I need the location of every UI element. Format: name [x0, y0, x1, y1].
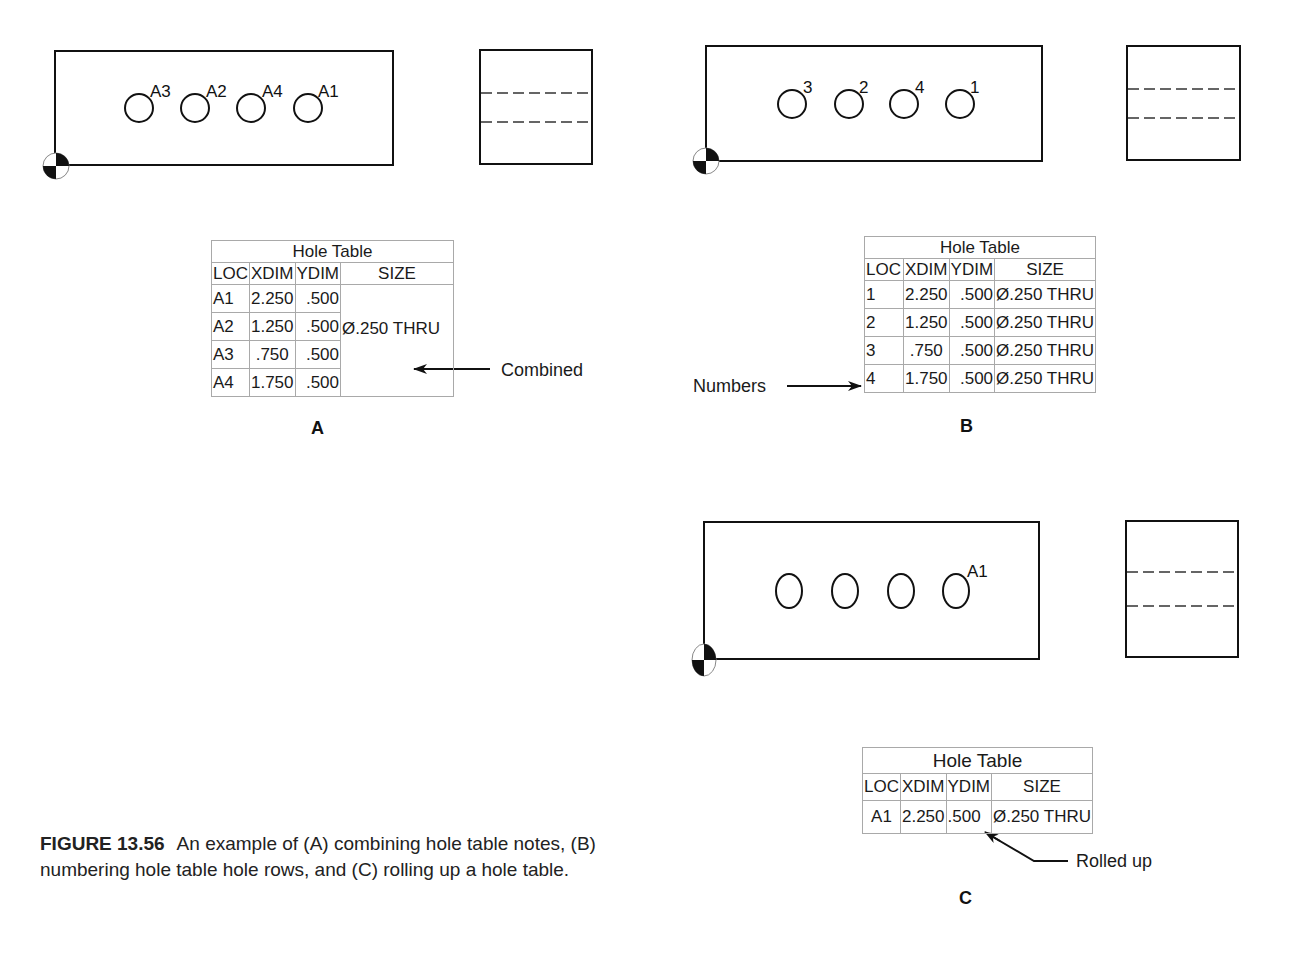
combined-annotation: Combined — [501, 360, 583, 381]
column-header: LOC — [212, 263, 250, 285]
hole-callout: A1 — [967, 562, 988, 582]
size-cell: Ø.250 THRU — [995, 365, 1096, 393]
xdim-cell: .750 — [249, 341, 295, 369]
loc-cell: A1 — [863, 801, 901, 834]
xdim-cell: 1.750 — [249, 369, 295, 397]
ydim-cell: .500 — [295, 369, 341, 397]
loc-cell: A1 — [212, 285, 250, 313]
datum-origin-icon — [43, 153, 69, 179]
hole-table-c: Hole Table LOC XDIM YDIM SIZE A1 2.250 .… — [862, 747, 1093, 834]
column-header: SIZE — [995, 259, 1096, 281]
column-header: XDIM — [249, 263, 295, 285]
ydim-cell: .500 — [949, 309, 995, 337]
figure-number: FIGURE 13.56 — [40, 833, 165, 854]
xdim-cell: 2.250 — [900, 801, 946, 834]
figure-caption: FIGURE 13.56An example of (A) combining … — [40, 831, 600, 883]
hole-a3 — [125, 94, 153, 122]
table-row: A1 2.250 .500 Ø.250 THRU — [863, 801, 1093, 834]
ydim-cell: .500 — [949, 365, 995, 393]
panel-label-b: B — [960, 416, 973, 437]
loc-cell: A3 — [212, 341, 250, 369]
numbers-annotation: Numbers — [693, 376, 766, 397]
panel-c-front-view — [692, 522, 1039, 676]
hole-callout: A2 — [206, 82, 227, 102]
panel-c-side-view — [1126, 521, 1238, 657]
column-header: YDIM — [295, 263, 341, 285]
ydim-cell: .500 — [295, 313, 341, 341]
hole-callout: A3 — [150, 82, 171, 102]
loc-cell: 2 — [865, 309, 904, 337]
table-row: 1 2.250 .500 Ø.250 THRU — [865, 281, 1096, 309]
ydim-cell: .500 — [946, 801, 992, 834]
column-header: XDIM — [904, 259, 950, 281]
loc-cell: 3 — [865, 337, 904, 365]
datum-origin-icon — [693, 148, 719, 174]
size-cell: Ø.250 THRU — [995, 281, 1096, 309]
xdim-cell: 2.250 — [904, 281, 950, 309]
loc-cell: 4 — [865, 365, 904, 393]
ydim-cell: .500 — [295, 341, 341, 369]
panel-label-c: C — [959, 888, 972, 909]
size-cell: Ø.250 THRU — [995, 337, 1096, 365]
ydim-cell: .500 — [949, 281, 995, 309]
table-row: 4 1.750 .500 Ø.250 THRU — [865, 365, 1096, 393]
rolled-up-arrow — [988, 834, 1068, 861]
column-header: YDIM — [946, 774, 992, 801]
table-row: A1 2.250 .500 Ø.250 THRU — [212, 285, 454, 313]
hole-a4 — [237, 94, 265, 122]
size-cell: Ø.250 THRU — [992, 801, 1093, 834]
hole-callout: 3 — [803, 78, 812, 98]
column-header: YDIM — [949, 259, 995, 281]
table-title: Hole Table — [212, 241, 454, 263]
table-title: Hole Table — [865, 237, 1096, 259]
xdim-cell: .750 — [904, 337, 950, 365]
table-title: Hole Table — [863, 748, 1093, 774]
panel-b-front-view — [693, 46, 1042, 174]
table-row: 3 .750 .500 Ø.250 THRU — [865, 337, 1096, 365]
drawing-canvas — [0, 0, 1293, 972]
ydim-cell: .500 — [949, 337, 995, 365]
rolled-up-annotation: Rolled up — [1076, 851, 1152, 872]
hole-callout: 2 — [859, 78, 868, 98]
panel-a-front-view — [43, 51, 393, 179]
hole-table-a: Hole Table LOC XDIM YDIM SIZE A1 2.250 .… — [211, 240, 454, 397]
loc-cell: 1 — [865, 281, 904, 309]
hole-a2 — [181, 94, 209, 122]
panel-label-a: A — [311, 418, 324, 439]
column-header: XDIM — [900, 774, 946, 801]
xdim-cell: 2.250 — [249, 285, 295, 313]
xdim-cell: 1.750 — [904, 365, 950, 393]
panel-b-side-view — [1127, 46, 1240, 160]
hole-callout: 4 — [915, 78, 924, 98]
datum-origin-icon — [692, 644, 716, 676]
loc-cell: A2 — [212, 313, 250, 341]
hole-table-b: Hole Table LOC XDIM YDIM SIZE 1 2.250 .5… — [864, 236, 1096, 393]
hole-callout: A1 — [318, 82, 339, 102]
hole-callout: A4 — [262, 82, 283, 102]
ydim-cell: .500 — [295, 285, 341, 313]
column-header: SIZE — [992, 774, 1093, 801]
hole-callout: 1 — [970, 78, 979, 98]
xdim-cell: 1.250 — [249, 313, 295, 341]
size-cell: Ø.250 THRU — [995, 309, 1096, 337]
combined-size-cell: Ø.250 THRU — [341, 285, 454, 397]
panel-a-side-view — [480, 50, 592, 164]
column-header: LOC — [865, 259, 904, 281]
column-header: LOC — [863, 774, 901, 801]
table-row: 2 1.250 .500 Ø.250 THRU — [865, 309, 1096, 337]
column-header: SIZE — [341, 263, 454, 285]
loc-cell: A4 — [212, 369, 250, 397]
xdim-cell: 1.250 — [904, 309, 950, 337]
